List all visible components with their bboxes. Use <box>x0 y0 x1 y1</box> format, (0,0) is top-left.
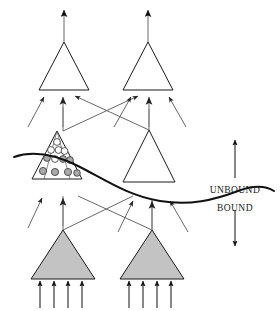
synaptic-hierarchy-figure: UNBOUND BOUND <box>0 0 280 311</box>
unbound-label: UNBOUND <box>210 185 260 195</box>
bound-label: BOUND <box>217 203 253 213</box>
